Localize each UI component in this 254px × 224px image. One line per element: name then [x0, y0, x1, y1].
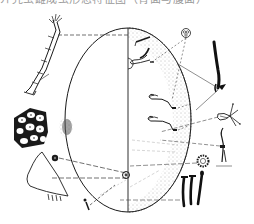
- cuticle-cells-illustration: [14, 108, 73, 148]
- body-outline: [63, 28, 191, 212]
- small-pore-illustration: [52, 155, 126, 173]
- insect-morphology-diagram: [0, 0, 254, 224]
- tubular-duct-illustration: [84, 185, 116, 210]
- anal-plate-illustration: [27, 152, 126, 201]
- antenna-illustration: [24, 14, 128, 95]
